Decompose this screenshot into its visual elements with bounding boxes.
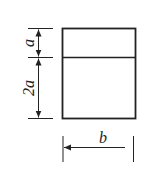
label-2a: 2a <box>20 80 37 96</box>
section-rectangle <box>63 29 136 119</box>
label-a: a <box>20 39 37 47</box>
cross-section-diagram: a 2a b <box>0 0 146 174</box>
label-b: b <box>99 129 107 146</box>
